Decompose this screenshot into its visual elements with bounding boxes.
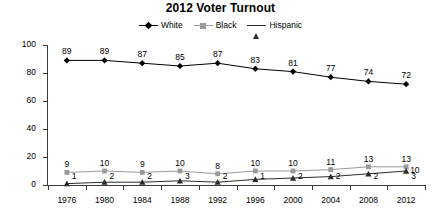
data-label: 11 (326, 158, 335, 167)
data-label: 89 (100, 47, 109, 56)
y-tick-label: 0 (31, 179, 36, 189)
data-label: 3 (185, 172, 190, 181)
data-label: 87 (138, 50, 147, 59)
data-label: 2 (223, 172, 228, 181)
legend-marker-diamond-icon (139, 21, 158, 30)
data-label: 10 (100, 159, 109, 168)
data-label: 1 (72, 172, 77, 181)
chart-container: 2012 Voter Turnout White Black Hispanic (0, 0, 441, 219)
data-label: 13 (364, 155, 373, 164)
data-label: 2 (298, 172, 303, 181)
series-line-white (67, 60, 406, 84)
data-label: 89 (62, 47, 71, 56)
data-label: 74 (364, 68, 373, 77)
plot-area: 020406080100 898987858783817774729109108… (48, 45, 425, 185)
data-point-white (215, 60, 221, 66)
legend-item-hispanic[interactable]: Hispanic (247, 20, 302, 30)
data-point-black (178, 169, 183, 174)
data-label: 81 (288, 59, 297, 68)
data-label: 9 (64, 160, 69, 169)
x-axis-label: 1988 (170, 195, 189, 205)
legend-marker-triangle-icon (247, 21, 266, 30)
legend-label-white: White (161, 20, 183, 30)
data-point-white (177, 63, 183, 69)
legend-label-black: Black (216, 20, 237, 30)
x-axis-label: 2012 (397, 195, 416, 205)
x-axis-label: 1976 (57, 195, 76, 205)
data-point-white (139, 60, 145, 66)
data-point-black (102, 169, 107, 174)
legend-marker-square-icon (194, 21, 213, 30)
data-point-white (252, 66, 258, 72)
legend-item-black[interactable]: Black (194, 20, 237, 30)
chart-title: 2012 Voter Turnout (0, 1, 441, 15)
data-point-white (101, 57, 107, 63)
chart-legend: White Black Hispanic (0, 20, 441, 30)
data-point-black (253, 169, 258, 174)
data-label: 85 (175, 53, 184, 62)
x-axis-label: 2000 (284, 195, 303, 205)
data-label: 77 (326, 64, 335, 73)
y-tick-label: 40 (27, 123, 36, 133)
data-point-black (215, 171, 220, 176)
data-label: 10 (288, 159, 297, 168)
data-label: 72 (401, 71, 410, 80)
data-label: 10 (175, 159, 184, 168)
data-label: 2 (110, 172, 115, 181)
data-label: 83 (251, 56, 260, 65)
x-axis-label: 1992 (208, 195, 227, 205)
y-tick-label: 80 (27, 67, 36, 77)
data-point-black (328, 167, 333, 172)
legend-item-white[interactable]: White (139, 20, 183, 30)
data-point-white (64, 57, 70, 63)
x-tick (425, 185, 426, 190)
data-label: 2 (336, 172, 341, 181)
data-label: 2 (373, 172, 378, 181)
data-label: 13 (401, 155, 410, 164)
data-label: 9 (140, 160, 145, 169)
data-point-white (328, 74, 334, 80)
data-label: 10 (410, 166, 419, 175)
data-label: 10 (251, 159, 260, 168)
y-tick-label: 20 (27, 151, 36, 161)
data-point-black (64, 170, 69, 175)
data-label: 8 (215, 162, 220, 171)
data-point-black (140, 170, 145, 175)
data-point-black (366, 164, 371, 169)
x-axis-label: 2008 (359, 195, 378, 205)
y-tick-label: 100 (22, 39, 36, 49)
x-axis-label: 2004 (321, 195, 340, 205)
data-point-black (291, 169, 296, 174)
x-axis-label: 1984 (133, 195, 152, 205)
data-point-white (365, 78, 371, 84)
x-axis-label: 1996 (246, 195, 265, 205)
data-point-white (403, 81, 409, 87)
series-line-black (67, 167, 406, 174)
data-label: 2 (147, 172, 152, 181)
x-axis-label: 1980 (95, 195, 114, 205)
y-tick-label: 60 (27, 95, 36, 105)
data-label: 1 (260, 172, 265, 181)
data-point-white (290, 69, 296, 75)
data-label: 87 (213, 50, 222, 59)
legend-label-hispanic: Hispanic (269, 20, 302, 30)
